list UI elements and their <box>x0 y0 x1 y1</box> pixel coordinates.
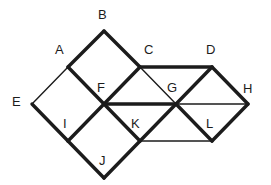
vertex-label-b: B <box>98 8 107 21</box>
edge-b-c <box>104 31 140 67</box>
vertex-label-e: E <box>12 95 21 108</box>
vertex-label-c: C <box>144 43 153 56</box>
edge-a-b <box>68 31 104 67</box>
edge-c-f <box>104 67 140 104</box>
geometry-diagram: ABCDEFGHIJKL <box>0 0 271 185</box>
vertex-label-i: I <box>63 117 67 130</box>
edge-layer <box>32 31 248 178</box>
edge-g-d <box>176 67 212 104</box>
edge-k-g <box>140 104 176 141</box>
vertex-label-g: G <box>167 81 177 94</box>
vertex-label-k: K <box>131 117 140 130</box>
rhombus-lattice-svg <box>0 0 271 185</box>
edge-h-l <box>212 104 248 141</box>
vertex-label-h: H <box>243 82 252 95</box>
edge-a-e <box>32 67 68 104</box>
vertex-label-l: L <box>206 117 213 130</box>
edge-i-f <box>68 104 104 141</box>
vertex-label-a: A <box>55 43 64 56</box>
edge-j-k <box>104 141 140 178</box>
vertex-label-d: D <box>206 43 215 56</box>
vertex-label-j: J <box>99 154 106 167</box>
vertex-label-f: F <box>97 81 105 94</box>
